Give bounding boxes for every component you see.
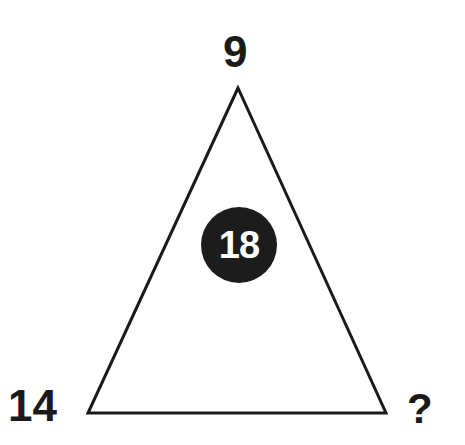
triangle-number-puzzle: 9 14 ? 18 bbox=[0, 0, 465, 445]
center-number: 18 bbox=[219, 226, 259, 264]
bottom-right-unknown-mark: ? bbox=[407, 388, 433, 430]
bottom-left-vertex-number: 14 bbox=[8, 384, 57, 428]
center-circle: 18 bbox=[201, 207, 277, 283]
top-vertex-number: 9 bbox=[223, 30, 247, 74]
